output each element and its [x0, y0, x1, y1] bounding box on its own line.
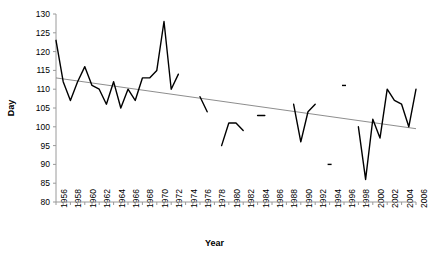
data-line-segment [358, 89, 416, 179]
data-series-day [56, 22, 416, 180]
data-line-segment [222, 123, 244, 146]
trendline [56, 78, 416, 129]
chart-container: Day 80859095100105110115120125130 195619… [0, 0, 429, 258]
plot-area [0, 0, 429, 258]
axes [53, 14, 416, 205]
data-line-segment [294, 104, 316, 142]
trend-line-path [56, 78, 416, 129]
x-axis-title: Year [0, 238, 429, 248]
data-line-segment [56, 22, 178, 108]
